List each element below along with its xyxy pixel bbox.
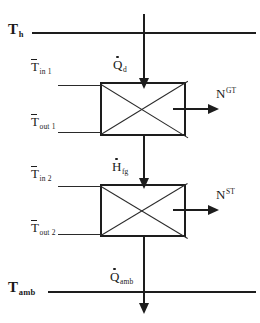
stream-in-1-symbol: T [31, 59, 39, 73]
work-st-line [173, 209, 210, 211]
stream-out-1-label: Tout 1 [31, 114, 55, 128]
interstage-spine [143, 135, 145, 182]
stream-out-2-label: Tout 2 [31, 220, 55, 234]
stream-out-1-subscript: out 1 [39, 122, 55, 131]
stream-in-1-line [58, 85, 101, 86]
heat-out-symbol: Q [110, 270, 119, 283]
hot-reservoir-symbol: T [8, 21, 18, 37]
stream-out-2-line [58, 234, 101, 235]
interstage-label: Hfg [112, 160, 128, 173]
stream-in-2-subscript: in 2 [39, 174, 51, 183]
ambient-reservoir-symbol: T [8, 279, 18, 295]
ambient-reservoir-label: Tamb [8, 280, 35, 295]
heat-out-spine [143, 236, 145, 308]
ambient-reservoir-subscript: amb [19, 287, 36, 297]
heat-out-arrowhead [139, 303, 149, 314]
heat-out-subscript: amb [120, 277, 134, 286]
work-st-arrowhead [208, 205, 219, 215]
stream-out-2-subscript: out 2 [39, 228, 55, 237]
diagram-canvas: Th Qd Tin 1 Tout 1 NGT Hfg Tin 2 Tout 2 [0, 0, 260, 323]
work-gt-superscript: GT [226, 86, 237, 95]
stream-out-1-line [58, 132, 101, 133]
stream-in-2-symbol: T [31, 166, 39, 180]
work-st-superscript: ST [226, 187, 235, 196]
interstage-subscript: fg [122, 167, 129, 176]
heat-out-label: Qamb [110, 270, 133, 283]
heat-in-symbol: Q [113, 58, 122, 71]
stream-out-2-symbol: T [31, 220, 39, 234]
stream-in-2-label: Tin 2 [31, 166, 51, 180]
stream-in-1-label: Tin 1 [31, 59, 51, 73]
stream-in-2-line [58, 186, 101, 187]
work-gt-line [173, 108, 210, 110]
heat-in-spine [143, 14, 145, 82]
work-st-label: NST [216, 188, 235, 201]
heat-in-subscript: d [123, 65, 127, 74]
hot-reservoir-label: Th [8, 22, 23, 37]
heat-in-label: Qd [113, 58, 126, 71]
work-gt-arrowhead [208, 104, 219, 114]
work-gt-label: NGT [216, 87, 236, 100]
hot-reservoir-subscript: h [19, 29, 24, 39]
interstage-symbol: H [112, 160, 121, 173]
work-gt-symbol: N [216, 86, 225, 101]
stream-out-1-symbol: T [31, 114, 39, 128]
stream-in-1-subscript: in 1 [39, 67, 51, 76]
work-st-symbol: N [216, 187, 225, 202]
ambient-reservoir-line [48, 291, 256, 293]
